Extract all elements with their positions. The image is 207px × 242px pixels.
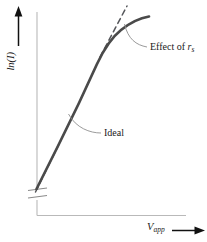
figure-container: ln(I) Vapp Effect of rs Ideal	[0, 0, 207, 242]
x-axis-label: Vapp	[147, 222, 165, 233]
ideal-annotation-label: Ideal	[104, 128, 124, 138]
effect-leader-line	[125, 24, 148, 47]
effect-annotation-subscript: s	[191, 45, 194, 54]
axis-break-mark-lower	[28, 196, 47, 199]
effect-annotation-label: Effect of rs	[150, 42, 194, 53]
effect-annotation-text: Effect of	[150, 41, 188, 52]
x-axis-arrow-head	[195, 227, 206, 235]
measured-curve	[37, 17, 150, 190]
plot-canvas	[0, 0, 207, 242]
y-axis-arrow-head	[15, 6, 23, 17]
y-axis-label: ln(I)	[6, 42, 17, 80]
x-axis-label-subscript: app	[153, 225, 164, 234]
